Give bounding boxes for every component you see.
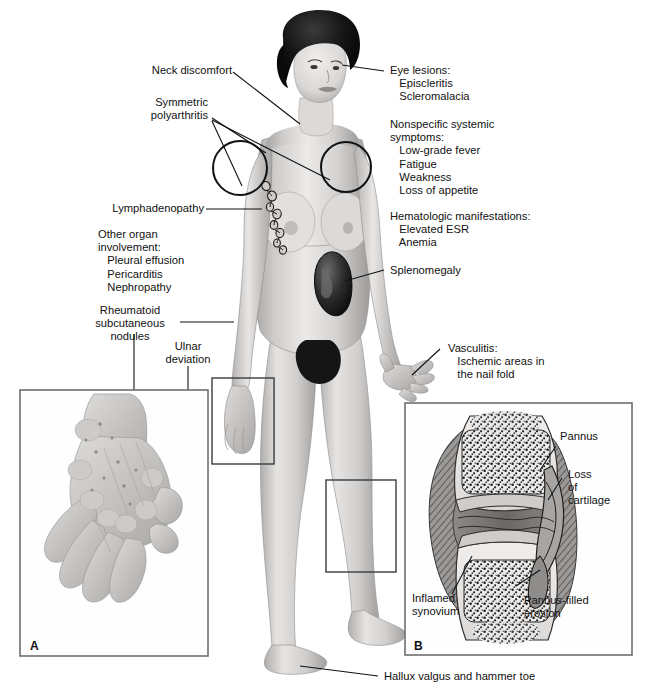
label-ulnar-deviation: Ulnar deviation: [152, 340, 224, 366]
left-eye: [333, 66, 339, 70]
upper-epiphysis-marrow: [470, 411, 542, 435]
upper-marrow: [462, 430, 550, 494]
label-neck-discomfort: Neck discomfort: [16, 64, 232, 77]
label-hematologic-manifestations: Hematologic manifestations: Elevated ESR…: [390, 210, 600, 250]
label-pannus: Pannus: [560, 430, 630, 443]
right-hand: [224, 386, 255, 454]
label-loss-of-cartilage: Loss of cartilage: [568, 468, 632, 508]
label-hallux-valgus: Hallux valgus and hammer toe: [384, 670, 634, 683]
neck: [299, 97, 333, 136]
label-lymphadenopathy: Lymphadenopathy: [16, 202, 204, 215]
label-symmetric-polyarthritis: Symmetric polyarthritis: [16, 96, 208, 122]
label-other-organ-involvement: Other organ involvement: Pleural effusio…: [98, 228, 248, 294]
lower-epiphysis-marrow: [472, 620, 540, 644]
left-nipple: [343, 222, 353, 234]
label-nonspecific-systemic-symptoms: Nonspecific systemic symptoms: Low-grade…: [390, 118, 590, 197]
panel-a-group: A: [20, 390, 208, 656]
panel-b-letter: B: [414, 639, 423, 653]
label-rheumatoid-nodules: Rheumatoid subcutaneous nodules: [80, 304, 180, 344]
label-inflamed-synovium: Inflamed synovium: [412, 592, 498, 618]
right-eye: [310, 65, 317, 69]
panel-a-letter: A: [30, 639, 39, 653]
label-vasculitis: Vasculitis: Ischemic areas in the nail f…: [448, 342, 618, 382]
label-eye-lesions: Eye lesions: Episcleritis Scleromalacia: [390, 64, 580, 104]
right-nipple: [284, 221, 298, 235]
label-pannus-filled-erosion: Pannus-filled erosion: [524, 594, 628, 620]
label-splenomegaly: Splenomegaly: [390, 264, 540, 277]
